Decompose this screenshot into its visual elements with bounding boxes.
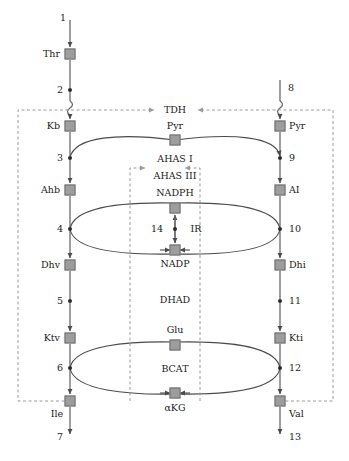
metabolite-label-thr: Thr [43,49,60,59]
metabolite-label-ahb: Ahb [41,185,60,195]
right-branch-spine [278,80,283,434]
metabolite-label-kti: Kti [289,333,303,343]
metabolite-pyr-right[interactable] [275,121,286,132]
enzyme-label-bcat: BCAT [161,364,188,374]
flux-label-5: 5 [57,296,63,306]
metabolite-label-dhv: Dhv [41,260,60,270]
cofactor-pyr-center[interactable] [170,135,181,146]
flux-label-8: 8 [288,83,294,93]
cofactor-akg[interactable] [170,388,181,399]
cofactor-label-nadp: NADP [160,259,189,269]
flux-label-10: 10 [289,224,301,234]
enzyme-label-ir: IR [191,224,202,234]
flux-node-11[interactable] [278,299,282,303]
metabolite-val[interactable] [275,396,286,407]
enzyme-label-ahas3: AHAS III [154,171,197,181]
metabolite-label-kb: Kb [47,121,60,131]
metabolite-label-ktv: Ktv [44,333,60,343]
metabolite-dhi[interactable] [275,260,286,271]
metabolite-label-ile: Ile [51,409,63,419]
flux-node-9[interactable] [278,156,282,160]
cofactor-nadph[interactable] [170,203,181,214]
metabolite-label-ai: AI [289,185,300,195]
flux-label-12: 12 [289,363,301,373]
enzyme-label-dhad: DHAD [160,295,190,305]
flux-label-14: 14 [151,224,163,234]
flux-label-2: 2 [57,85,63,95]
cofactor-glu[interactable] [170,340,181,351]
enzyme-label-tdh: TDH [161,105,189,115]
flux-node-14[interactable] [173,227,177,231]
cofactor-nadp[interactable] [170,245,181,256]
metabolite-dhv[interactable] [65,260,76,271]
metabolite-label-dhi: Dhi [289,260,306,270]
flux-label-4: 4 [57,224,63,234]
metabolite-label-val: Val [289,409,304,419]
metabolite-ai[interactable] [275,185,286,196]
metabolite-ile[interactable] [65,396,76,407]
enzyme-label-ahas1: AHAS I [157,154,192,164]
flux-label-13: 13 [289,432,301,442]
metabolite-ktv[interactable] [65,333,76,344]
ile-feedback-inhibition-path [18,110,154,401]
flux-label-1: 1 [60,13,66,23]
flux-node-6[interactable] [68,366,72,370]
flux-node-2[interactable] [68,88,72,92]
flux-label-3: 3 [57,153,63,163]
metabolite-label-pyr-right: Pyr [289,121,305,131]
flux-node-4[interactable] [68,227,72,231]
flux-node-3[interactable] [68,156,72,160]
metabolite-thr[interactable] [65,49,76,60]
flux-node-10[interactable] [278,227,282,231]
flux-label-7: 7 [57,432,63,442]
flux-label-11: 11 [289,296,301,306]
flux-node-5[interactable] [68,299,72,303]
cofactor-label-nadph: NADPH [156,188,193,198]
metabolite-kb[interactable] [65,121,76,132]
cofactor-label-glu: Glu [167,325,184,335]
cofactor-label-pyr-center: Pyr [167,121,183,131]
flux-node-12[interactable] [278,366,282,370]
pathway-diagram: 1 Thr 2 Kb 3 Ahb 4 Dhv 5 Ktv 6 Ile 7 8 P… [0,0,349,461]
flux-label-6: 6 [57,363,63,373]
flux-label-9: 9 [289,153,295,163]
metabolite-ahb[interactable] [65,185,76,196]
metabolite-kti[interactable] [275,333,286,344]
cofactor-label-akg: αKG [164,403,185,413]
